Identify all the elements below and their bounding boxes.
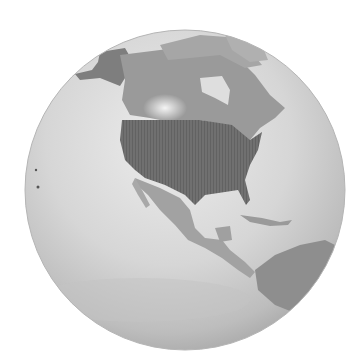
globe-illustration — [0, 0, 359, 363]
globe-image — [0, 0, 359, 363]
glare-highlight — [143, 94, 187, 122]
hawaii-island — [35, 169, 37, 171]
shadow-band — [30, 278, 250, 322]
hawaii-island — [37, 186, 40, 189]
